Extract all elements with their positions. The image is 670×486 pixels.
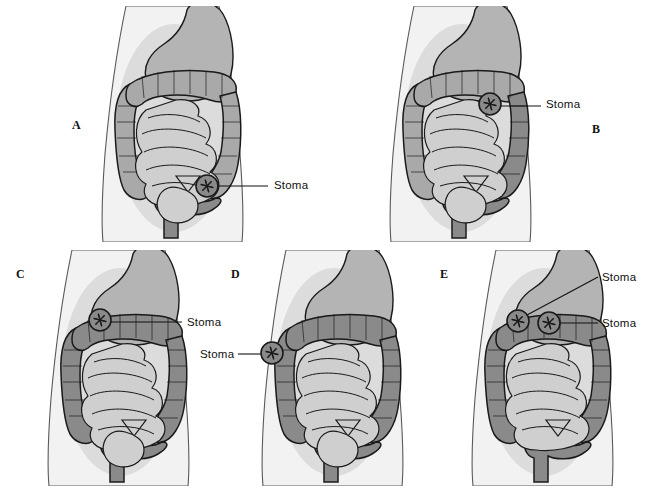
stoma-label: Stoma — [187, 316, 221, 328]
panel-letter-c: C — [16, 267, 25, 282]
stoma-label: Stoma — [602, 317, 636, 329]
panel-letter-e: E — [440, 267, 448, 282]
panel-letter-d: D — [231, 267, 240, 282]
panel-d-anatomy — [250, 250, 420, 486]
stoma-label: Stoma — [546, 98, 580, 110]
stoma-marker[interactable] — [196, 175, 218, 197]
panel-e-anatomy — [460, 250, 630, 486]
stoma-label: Stoma — [274, 179, 308, 191]
stoma-marker-distal[interactable] — [538, 312, 560, 334]
stoma-marker[interactable] — [479, 93, 501, 115]
stoma-label: Stoma — [602, 271, 636, 283]
stoma-marker[interactable] — [89, 309, 111, 331]
stoma-label: Stoma — [200, 348, 234, 360]
panel-letter-b: B — [592, 122, 600, 137]
panel-letter-a: A — [72, 118, 81, 133]
stoma-marker[interactable] — [261, 342, 283, 364]
panel-b-anatomy — [378, 6, 548, 242]
stoma-marker-proximal[interactable] — [507, 310, 529, 332]
panel-c-anatomy — [36, 250, 206, 486]
panel-a-anatomy — [90, 6, 260, 242]
